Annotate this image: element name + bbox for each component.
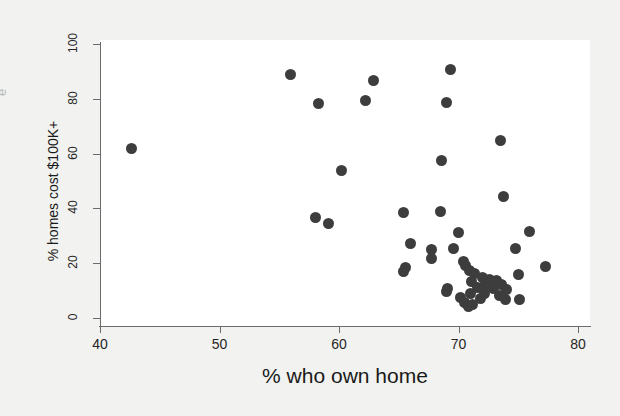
y-tick-label: 80 [66, 84, 80, 112]
y-tick-mark [93, 263, 100, 264]
y-tick-mark [93, 99, 100, 100]
y-tick-label: 60 [66, 139, 80, 167]
x-tick-mark [459, 326, 460, 333]
x-tick-label: 60 [319, 336, 359, 352]
x-axis-line [99, 326, 591, 327]
x-tick-mark [100, 326, 101, 333]
x-tick-mark [220, 326, 221, 333]
y-tick-label: 0 [66, 303, 80, 331]
clipped-edge-text: e [0, 88, 9, 96]
x-tick-mark [339, 326, 340, 333]
y-axis-title: % homes cost $100K+ [45, 76, 61, 306]
x-tick-label: 40 [80, 336, 120, 352]
x-tick-mark [578, 326, 579, 333]
y-axis-line [100, 42, 101, 327]
plot-area-background [100, 40, 590, 326]
y-tick-mark [93, 154, 100, 155]
y-tick-mark [93, 318, 100, 319]
scatter-plot-figure: e 020406080100 4050607080 % who own home… [0, 0, 620, 416]
y-tick-mark [93, 44, 100, 45]
y-tick-mark [93, 208, 100, 209]
x-axis-title: % who own home [100, 364, 590, 388]
y-tick-label: 20 [66, 248, 80, 276]
y-tick-label: 40 [66, 193, 80, 221]
x-tick-label: 50 [200, 336, 240, 352]
x-tick-label: 80 [558, 336, 598, 352]
y-tick-label: 100 [66, 29, 80, 57]
x-tick-label: 70 [439, 336, 479, 352]
